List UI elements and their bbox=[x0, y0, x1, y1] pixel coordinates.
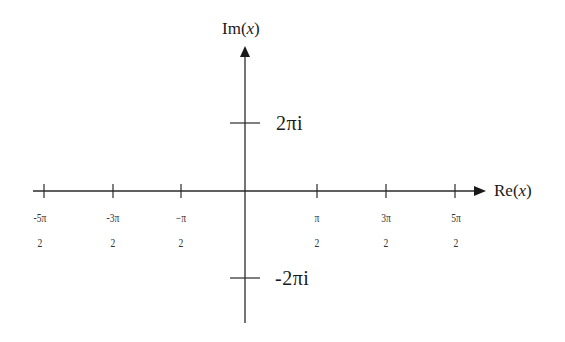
real-axis-label: Re(x) bbox=[494, 182, 532, 199]
imag-tick-label-neg-2pi: -2πi bbox=[275, 268, 309, 288]
label-suffix: ) bbox=[526, 181, 532, 200]
label-prefix: Re( bbox=[494, 181, 519, 200]
real-axis-arrow-icon bbox=[474, 186, 486, 196]
label-var: x bbox=[247, 19, 255, 38]
complex-plane-diagram: Im(x) Re(x) 2πi -2πi -5π -3π −π π 3π 5π … bbox=[0, 0, 565, 342]
real-tick-den-1: 2 bbox=[111, 237, 116, 249]
real-tick-num-1: -3π bbox=[107, 212, 120, 224]
axes-graphic bbox=[0, 0, 565, 342]
real-tick-den-3: 2 bbox=[315, 237, 320, 249]
real-tick-den-0: 2 bbox=[38, 237, 43, 249]
real-tick-den-4: 2 bbox=[384, 237, 389, 249]
real-tick-num-2: −π bbox=[176, 212, 186, 224]
real-tick-num-0: -5π bbox=[34, 212, 47, 224]
imaginary-axis-label: Im(x) bbox=[222, 20, 260, 37]
label-prefix: Im( bbox=[222, 19, 247, 38]
imaginary-axis-arrow-icon bbox=[240, 46, 250, 57]
label-suffix: ) bbox=[254, 19, 260, 38]
real-tick-num-4: 3π bbox=[381, 212, 391, 224]
real-tick-den-2: 2 bbox=[179, 237, 184, 249]
real-tick-num-3: π bbox=[315, 212, 320, 224]
real-tick-den-5: 2 bbox=[454, 237, 459, 249]
real-tick-num-5: 5π bbox=[451, 212, 461, 224]
imag-tick-label-2pi: 2πi bbox=[276, 113, 303, 133]
label-var: x bbox=[519, 181, 527, 200]
